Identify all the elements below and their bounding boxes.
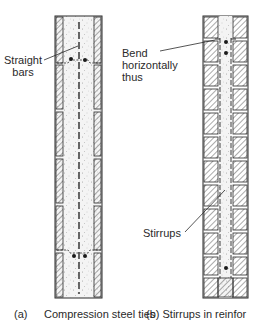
- label-bend-line2: horizontally: [122, 59, 178, 71]
- label-bend-line3: thus: [122, 71, 178, 83]
- label-bend-horizontally: Bend horizontally thus: [122, 47, 178, 83]
- label-bend-line1: Bend: [122, 47, 178, 59]
- label-straight-bars-line1: Straight: [3, 54, 43, 66]
- label-straight-bars-line2: bars: [3, 66, 43, 78]
- label-stirrups: Stirrups: [143, 227, 181, 239]
- label-straight-bars: Straight bars: [3, 54, 43, 78]
- caption-a-tag: (a): [14, 308, 27, 320]
- caption-a-text: Compression steel ties: [44, 308, 155, 320]
- caption-b-text: (b) Stirrups in reinfor: [146, 308, 246, 320]
- figure-a-compression-ties: [44, 16, 102, 298]
